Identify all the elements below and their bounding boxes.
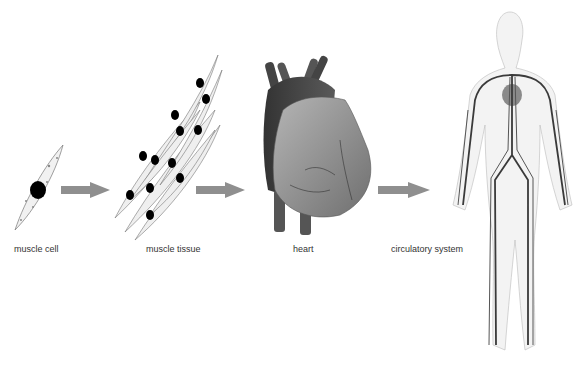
- arrow-icon: [378, 182, 430, 198]
- label-circulatory-system: circulatory system: [391, 244, 463, 254]
- label-muscle-cell: muscle cell: [14, 244, 59, 254]
- diagram-illustration: [0, 0, 584, 373]
- muscle-tissue-icon: [115, 55, 222, 240]
- muscle-cell-icon: [15, 145, 63, 230]
- heart-icon: [264, 55, 371, 235]
- diagram-canvas: muscle cell muscle tissue heart circulat…: [0, 0, 584, 373]
- label-heart: heart: [293, 244, 314, 254]
- arrow-icon: [196, 182, 245, 198]
- label-muscle-tissue: muscle tissue: [146, 244, 201, 254]
- arrow-icon: [61, 182, 110, 198]
- circulatory-system-icon: [453, 12, 572, 350]
